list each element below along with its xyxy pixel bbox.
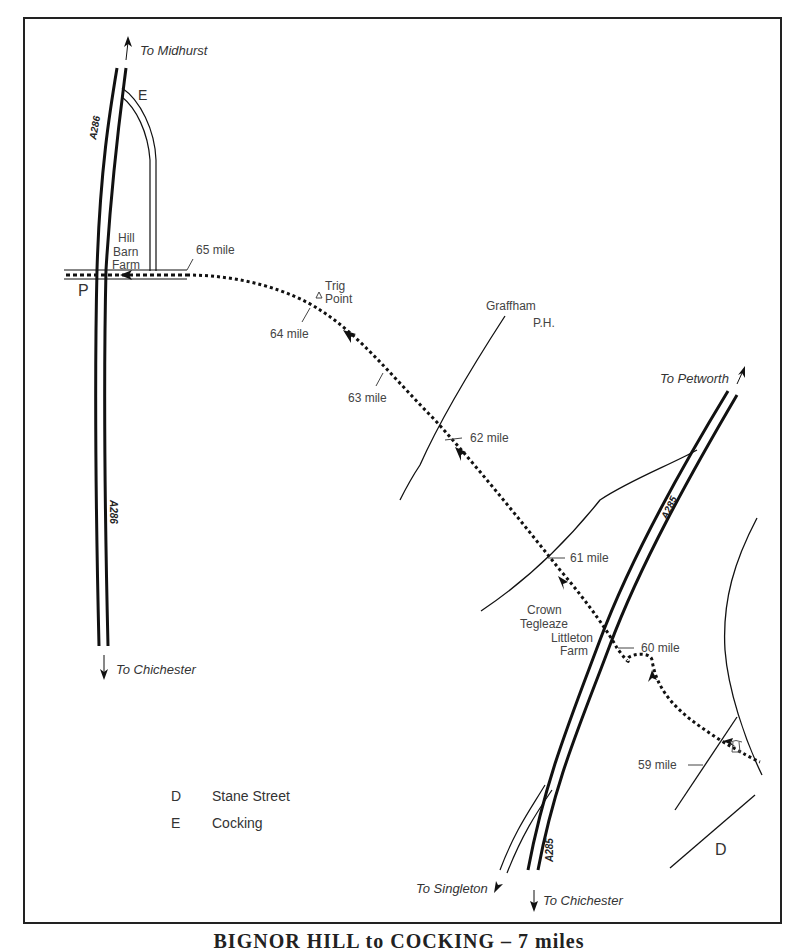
place-farm: Farm [112,258,140,272]
place-crown: Crown [527,603,562,617]
arrow-to-chichester-south-icon [530,890,538,912]
direction-to-singleton: To Singleton [416,881,488,896]
road-stane-street [670,795,755,868]
lane-chapel [675,717,737,810]
route-map: To Midhurst E A286 A286 To Chichester Hi… [0,0,798,951]
milepost-61: 61 mile [570,551,609,565]
legend-label-d: Stane Street [212,788,290,804]
arrow-to-midhurst-icon [124,36,132,60]
monument-icon [730,741,742,753]
milepost-62: 62 mile [470,431,509,445]
legend-key-e: E [171,815,180,831]
milepost-64: 64 mile [270,327,309,341]
place-hill: Hill [118,231,135,245]
arrow-to-chichester-west-icon [100,655,108,680]
place-trig: Trig [325,279,345,293]
marker-d: D [715,841,727,858]
place-littleton: Littleton [551,631,593,645]
arrow-to-singleton-icon [494,881,503,893]
marker-e: E [138,87,147,103]
milepost-65: 65 mile [196,243,235,257]
road-east [725,518,762,775]
place-barn: Barn [113,245,138,259]
place-farm-littleton: Farm [560,644,588,658]
place-ph: P.H. [533,316,555,330]
legend-label-e: Cocking [212,815,263,831]
map-frame [24,18,781,923]
direction-to-petworth: To Petworth [660,371,729,386]
place-tegleaze: Tegleaze [520,617,568,631]
arrow-to-petworth-icon [737,366,745,384]
place-graffham: Graffham [486,299,536,313]
legend-key-d: D [171,788,181,804]
milepost-60: 60 mile [641,641,680,655]
road-label-a286-bottom: A286 [108,499,119,524]
direction-to-chichester-south: To Chichester [543,893,623,908]
place-point: Point [325,292,353,306]
trig-point-icon [316,292,322,298]
legend: D Stane Street E Cocking [171,788,290,831]
route-path [187,275,760,762]
milepost-59: 59 mile [638,758,677,772]
road-a286 [96,68,126,646]
map-title: BIGNOR HILL to COCKING – 7 miles [0,930,798,951]
road-label-a285-bottom: A285 [544,838,555,863]
road-label-a286-top: A286 [87,114,102,141]
marker-p: P [78,282,89,299]
direction-to-midhurst: To Midhurst [140,43,209,58]
milepost-63: 63 mile [348,391,387,405]
lane-graffham [400,316,505,500]
lane-crown-tegleaze [481,450,697,611]
direction-to-chichester-west: To Chichester [116,662,196,677]
